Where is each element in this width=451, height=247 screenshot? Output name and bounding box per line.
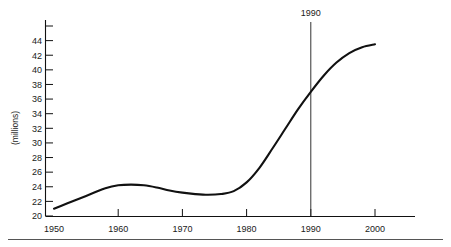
x-axis: 195019601970198019902000: [44, 209, 385, 234]
y-tick-label: 26: [32, 167, 42, 177]
y-tick-label: 32: [32, 124, 42, 134]
x-tick-label: 2000: [365, 224, 385, 234]
chart-canvas: (millions) 20222426283032343638404244 19…: [0, 0, 451, 247]
y-tick-label: 30: [32, 138, 42, 148]
y-axis-title-group: (millions): [10, 111, 20, 145]
x-tick-label: 1990: [301, 224, 321, 234]
y-tick-label: 34: [32, 109, 42, 119]
y-tick-label: 36: [32, 94, 42, 104]
y-tick-label: 38: [32, 80, 42, 90]
x-tick-label: 1950: [44, 224, 64, 234]
annotations: 1990: [301, 8, 321, 216]
population-line-chart: (millions) 20222426283032343638404244 19…: [0, 0, 451, 247]
y-tick-label: 44: [32, 36, 42, 46]
x-tick-label: 1980: [237, 224, 257, 234]
annotation-label: 1990: [301, 8, 321, 18]
y-axis-title: (millions): [10, 111, 20, 145]
y-tick-label: 42: [32, 51, 42, 61]
y-axis: 20222426283032343638404244: [32, 26, 53, 221]
x-tick-label: 1960: [108, 224, 128, 234]
y-tick-label: 22: [32, 197, 42, 207]
y-tick-label: 28: [32, 153, 42, 163]
y-tick-label: 40: [32, 65, 42, 75]
y-tick-label: 20: [32, 211, 42, 221]
y-tick-label: 24: [32, 182, 42, 192]
population-curve: [54, 44, 375, 208]
x-tick-label: 1970: [172, 224, 192, 234]
